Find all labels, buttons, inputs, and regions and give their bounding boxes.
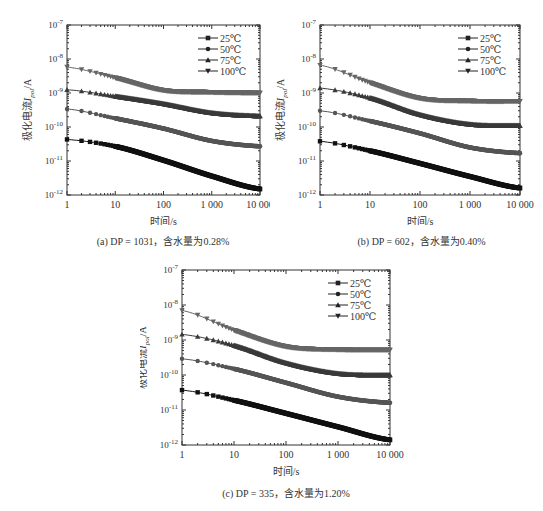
x-tick-label: 10 <box>110 199 120 210</box>
chart-c-caption: (c) DP = 335，含水量为1.20% <box>140 485 432 500</box>
square-marker-icon <box>216 394 220 398</box>
y-tick-label: 10-8 <box>301 52 316 64</box>
x-tick-label: 10 <box>365 199 375 210</box>
circle-marker-icon <box>211 362 215 366</box>
y-tick-label: 10-9 <box>301 86 316 98</box>
legend-label: 25℃ <box>350 278 371 289</box>
circle-marker-icon <box>466 47 471 52</box>
y-tick-label: 10-7 <box>163 263 178 275</box>
square-marker-icon <box>348 144 352 148</box>
square-marker-icon <box>388 438 393 443</box>
x-tick-label: 100 <box>413 199 428 210</box>
legend-item: 25℃ <box>198 33 241 44</box>
x-tick-label: 10 000 <box>246 199 270 210</box>
legend-item: 100℃ <box>198 66 246 77</box>
y-axis-label: 极化电流Ipol/A <box>21 78 36 141</box>
series-75℃ <box>179 332 392 378</box>
circle-marker-icon <box>258 144 263 149</box>
x-axis-label: 时间/s <box>150 215 177 225</box>
circle-marker-icon <box>195 359 199 363</box>
legend-label: 50℃ <box>350 289 371 300</box>
square-marker-icon <box>79 139 83 143</box>
legend-label: 75℃ <box>350 300 371 311</box>
chart-panel-c: 1101001 00010 000时间/s10-1210-1110-1010-9… <box>140 255 410 511</box>
legend-item: 75℃ <box>458 55 501 66</box>
circle-marker-icon <box>342 113 346 117</box>
x-tick-label: 10 000 <box>506 199 534 210</box>
circle-marker-icon <box>206 47 211 52</box>
y-tick-label: 10-10 <box>160 368 179 380</box>
x-axis-label: 时间/s <box>273 465 300 477</box>
y-tick-label: 10-11 <box>298 154 317 166</box>
circle-marker-icon <box>318 109 322 113</box>
square-marker-icon <box>99 141 103 145</box>
circle-marker-icon <box>333 111 337 115</box>
circle-marker-icon <box>216 363 220 367</box>
legend: 25℃50℃75℃100℃ <box>458 33 506 77</box>
y-tick-label: 10-8 <box>163 298 178 310</box>
series-25℃ <box>180 388 392 442</box>
legend-label: 75℃ <box>480 55 501 66</box>
circle-marker-icon <box>336 292 341 297</box>
legend-item: 50℃ <box>198 44 241 55</box>
square-marker-icon <box>333 141 337 145</box>
y-tick-label: 10-11 <box>45 154 64 166</box>
triangle-down-marker-icon <box>204 317 209 322</box>
triangle-down-marker-icon <box>347 73 352 78</box>
chart-c-svg: 1101001 00010 000时间/s10-1210-1110-1010-9… <box>140 255 415 480</box>
square-marker-icon <box>195 390 199 394</box>
y-tick-label: 10-10 <box>298 120 317 132</box>
square-marker-icon <box>342 143 346 147</box>
series-75℃ <box>317 85 523 128</box>
legend-item: 25℃ <box>328 278 371 289</box>
circle-marker-icon <box>180 357 184 361</box>
x-tick-label: 1 000 <box>201 199 224 210</box>
y-tick-label: 10-11 <box>160 403 179 415</box>
legend-item: 50℃ <box>458 44 501 55</box>
circle-marker-icon <box>353 115 357 119</box>
legend-item: 100℃ <box>328 311 376 322</box>
circle-marker-icon <box>388 401 393 406</box>
square-marker-icon <box>206 36 211 41</box>
legend-item: 25℃ <box>458 33 501 44</box>
legend-item: 50℃ <box>328 289 371 300</box>
square-marker-icon <box>65 137 69 141</box>
y-tick-label: 10-12 <box>45 188 64 200</box>
y-axis-label: 极化电流Ipol/A <box>140 326 151 389</box>
x-tick-label: 10 <box>229 449 239 460</box>
x-tick-label: 1 <box>180 449 185 460</box>
x-tick-label: 1 000 <box>327 449 350 460</box>
circle-marker-icon <box>94 112 98 116</box>
legend-label: 100℃ <box>480 66 506 77</box>
legend-item: 75℃ <box>328 300 371 311</box>
chart-b-svg: 1101001 00010 000时间/s10-1210-1110-1010-9… <box>270 0 543 225</box>
x-axis-label: 时间/s <box>407 215 434 225</box>
y-tick-label: 10-12 <box>298 188 317 200</box>
y-tick-label: 10-9 <box>163 333 178 345</box>
circle-marker-icon <box>99 113 103 117</box>
legend-label: 50℃ <box>220 44 241 55</box>
square-marker-icon <box>353 145 357 149</box>
y-tick-label: 10-9 <box>48 86 63 98</box>
y-tick-label: 10-12 <box>160 438 179 450</box>
x-tick-label: 1 <box>318 199 323 210</box>
circle-marker-icon <box>79 109 83 113</box>
legend-label: 100℃ <box>220 66 246 77</box>
chart-panel-b: 1101001 00010 000时间/s10-1210-1110-1010-9… <box>270 0 543 250</box>
legend-label: 25℃ <box>220 33 241 44</box>
circle-marker-icon <box>88 111 92 115</box>
square-marker-icon <box>94 141 98 145</box>
x-tick-label: 100 <box>156 199 171 210</box>
legend-item: 75℃ <box>198 55 241 66</box>
square-marker-icon <box>336 281 341 286</box>
legend-label: 50℃ <box>480 44 501 55</box>
square-marker-icon <box>518 186 523 191</box>
x-tick-label: 1 <box>65 199 70 210</box>
series-25℃ <box>318 139 523 190</box>
y-tick-label: 10-7 <box>48 18 63 30</box>
circle-marker-icon <box>518 151 523 156</box>
y-axis-label: 极化电流Ipol/A <box>274 78 289 141</box>
square-marker-icon <box>318 139 322 143</box>
square-marker-icon <box>180 388 184 392</box>
legend-label: 100℃ <box>350 311 376 322</box>
